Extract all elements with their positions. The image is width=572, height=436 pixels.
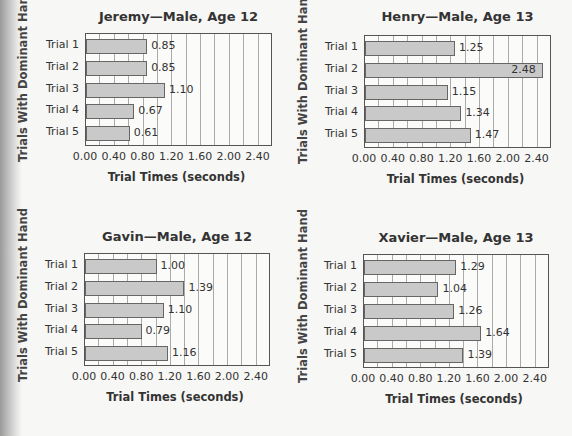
x-tick-label: 1.60 [186,370,211,383]
bar-value-label: 1.47 [475,128,500,141]
bar [364,326,481,341]
bar [365,128,471,143]
bar [85,303,164,318]
gridline [213,254,214,365]
x-tick-label: 2.40 [522,372,547,385]
x-tick-label: 0.00 [72,370,97,383]
gridline [506,255,507,367]
bar [364,282,438,297]
bar [86,83,165,98]
x-tick-label: 1.60 [467,152,492,165]
x-tick-label: 0.80 [409,152,434,165]
gridline [241,254,242,365]
bar [85,281,184,296]
gridline [520,255,521,367]
bar-value-label: 2.48 [511,63,536,76]
x-tick-label: 1.60 [465,372,490,385]
chart-title: Jeremy—Male, Age 12 [85,9,272,24]
x-tick-label: 0.00 [351,372,376,385]
chart-title: Henry—Male, Age 13 [364,9,551,24]
x-tick-label: 0.40 [379,372,404,385]
x-tick-label: 0.40 [381,152,406,165]
category-label: Trial 3 [303,303,357,316]
category-label: Trial 3 [304,84,358,97]
bar [85,259,157,274]
category-label: Trial 3 [25,82,79,95]
gridline [214,34,215,145]
bar-value-label: 1.29 [460,260,485,273]
x-tick-label: 1.20 [159,150,184,163]
bar-value-label: 0.79 [146,324,171,337]
category-label: Trial 1 [303,259,357,272]
bar-value-label: 1.10 [169,83,194,96]
x-tick-label: 0.40 [100,370,125,383]
x-tick-label: 1.20 [438,152,463,165]
chart-title: Xavier—Male, Age 13 [363,230,549,245]
x-tick-label: 0.00 [73,150,98,163]
gridline [198,254,199,365]
x-tick-label: 2.40 [524,152,549,165]
x-tick-label: 2.40 [245,150,270,163]
bar-value-label: 1.34 [465,106,490,119]
bar [85,346,168,361]
bar-value-label: 1.26 [458,304,483,317]
x-tick-label: 0.00 [352,152,377,165]
x-tick-label: 1.20 [158,370,183,383]
bar [86,126,130,141]
bar-value-label: 1.64 [485,326,510,339]
bar-value-label: 1.04 [442,282,467,295]
gridline [229,34,230,145]
bar-value-label: 0.85 [151,61,176,74]
bar-value-label: 1.10 [168,303,193,316]
category-label: Trial 1 [25,38,79,51]
bar [86,61,147,76]
category-label: Trial 5 [25,125,79,138]
plot-area: 0.850.851.100.670.61 [85,33,272,146]
x-tick-label: 2.00 [494,372,519,385]
category-label: Trial 2 [25,60,79,73]
gridline [508,36,509,147]
x-tick-label: 2.00 [217,150,242,163]
bar-value-label: 1.39 [188,281,213,294]
bar [364,260,456,275]
bar-value-label: 0.85 [151,39,176,52]
plot-area: 1.252.481.151.341.47 [364,35,551,148]
gridline [537,36,538,147]
category-label: Trial 2 [303,281,357,294]
gridline [256,254,257,365]
category-label: Trial 5 [24,345,78,358]
x-tick-label: 1.60 [188,150,213,163]
x-axis-label: Trial Times (seconds) [385,392,522,406]
bar [364,304,454,319]
bar-value-label: 1.15 [452,85,477,98]
category-label: Trial 2 [24,280,78,293]
gridline [258,34,259,145]
gridline [522,36,523,147]
category-label: Trial 1 [24,258,78,271]
x-tick-label: 0.80 [130,150,155,163]
bar [86,39,147,54]
bar-value-label: 0.61 [134,126,159,139]
bar [364,348,463,363]
bar [365,41,455,56]
x-tick-label: 0.40 [102,150,127,163]
category-label: Trial 4 [25,103,79,116]
bar-value-label: 0.67 [138,104,163,117]
bar [365,85,448,100]
category-label: Trial 4 [303,325,357,338]
x-tick-label: 0.80 [408,372,433,385]
gridline [227,254,228,365]
x-axis-label: Trial Times (seconds) [108,170,245,184]
bar-value-label: 1.00 [161,259,186,272]
bar-value-label: 1.39 [467,348,492,361]
x-tick-label: 1.20 [437,372,462,385]
gridline [535,255,536,367]
category-label: Trial 2 [304,62,358,75]
chart-title: Gavin—Male, Age 12 [84,229,270,244]
bar [86,104,134,119]
category-label: Trial 5 [304,127,358,140]
gridline [200,34,201,145]
bar [365,106,461,121]
x-tick-label: 0.80 [129,370,154,383]
bar-value-label: 1.16 [172,346,197,359]
